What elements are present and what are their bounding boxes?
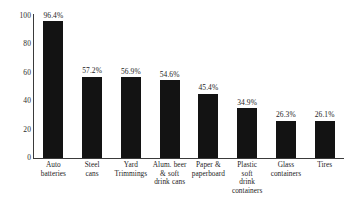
bar-value-label: 54.6% (144, 71, 196, 79)
bar-slot: 57.2% (82, 16, 102, 158)
bar-slot: 54.6% (160, 16, 180, 158)
y-tick-label: 60 (5, 69, 31, 77)
bar-value-label: 45.4% (182, 84, 234, 92)
bar-value-label: 26.1% (299, 111, 351, 119)
bar-slot: 34.9% (237, 16, 257, 158)
y-tick-label: 0 (5, 154, 31, 162)
plot-area: 96.4%57.2%56.9%54.6%45.4%34.9%26.3%26.1% (34, 16, 344, 158)
x-axis-label: Plasticsoftdrinkcontainers (228, 161, 267, 195)
x-axis-label-line: cans (73, 170, 112, 179)
x-axis-label-line: paperboard (189, 170, 228, 179)
x-axis-label-line: drink cans (150, 178, 189, 187)
x-axis-label: YardTrimmings (112, 161, 151, 178)
bar[interactable] (198, 94, 218, 158)
y-tick-label: 20 (5, 126, 31, 134)
bar[interactable] (315, 121, 335, 158)
bar-slot: 45.4% (198, 16, 218, 158)
x-axis-line (33, 158, 344, 159)
bar-slot: 26.1% (315, 16, 335, 158)
bar[interactable] (237, 108, 257, 158)
x-axis-label: Steelcans (73, 161, 112, 178)
x-axis-label: Glasscontainers (267, 161, 306, 178)
bar-chart: 100 80 60 40 20 0 96.4%57.2%56.9%54.6%45… (0, 0, 353, 204)
bar-value-label: 34.9% (221, 99, 273, 107)
x-axis-label: Alum. beer& softdrink cans (150, 161, 189, 187)
x-axis-label: Autobatteries (34, 161, 73, 178)
bar-slot: 96.4% (43, 16, 63, 158)
y-tick-label: 40 (5, 97, 31, 105)
bar[interactable] (43, 21, 63, 158)
x-axis-label-line: containers (267, 170, 306, 179)
x-axis-label-line: Trimmings (112, 170, 151, 179)
y-tick-label: 80 (5, 40, 31, 48)
bar[interactable] (121, 77, 141, 158)
bar[interactable] (276, 121, 296, 158)
bar[interactable] (160, 80, 180, 158)
x-axis-label-line: containers (228, 187, 267, 196)
x-axis-label-line: Tires (305, 161, 344, 170)
x-axis-label: Tires (305, 161, 344, 170)
x-axis-label-line: batteries (34, 170, 73, 179)
y-axis: 100 80 60 40 20 0 (0, 0, 31, 204)
bar-slot: 56.9% (121, 16, 141, 158)
bar[interactable] (82, 77, 102, 158)
x-axis-label: Paper &paperboard (189, 161, 228, 178)
bar-value-label: 96.4% (27, 12, 79, 20)
bar-slot: 26.3% (276, 16, 296, 158)
